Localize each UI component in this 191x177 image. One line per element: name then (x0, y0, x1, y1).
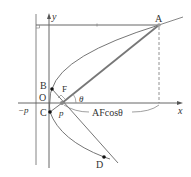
projection-label: AFcosθ (92, 107, 123, 118)
origin-label: O (39, 92, 46, 103)
point-C-label: C (40, 107, 47, 118)
angle-arc (73, 94, 76, 103)
neg-p-label: −p (18, 105, 29, 115)
point-A-label: A (155, 13, 163, 24)
p-label: p (58, 108, 64, 118)
right-angle-mark-F (58, 95, 65, 99)
point-C-marker (48, 110, 52, 114)
point-D-label: D (96, 159, 103, 170)
focal-chord-BD (52, 89, 118, 163)
parabola-diagram: y x A B O C D F θ −p p AFcosθ (0, 0, 191, 177)
focus-marker (60, 101, 64, 105)
focal-segment-AF (62, 25, 159, 103)
y-axis-arrow-icon (47, 13, 51, 19)
brace-leader-right (132, 105, 159, 112)
focus-label: F (62, 84, 67, 94)
y-axis-label: y (51, 11, 57, 22)
angle-theta-label: θ (79, 94, 84, 104)
x-axis-label: x (177, 105, 183, 116)
focal-line-extension-2 (62, 50, 120, 103)
point-B-label: B (40, 80, 47, 91)
point-B-marker (50, 87, 54, 91)
focal-line-extension (159, 17, 183, 25)
